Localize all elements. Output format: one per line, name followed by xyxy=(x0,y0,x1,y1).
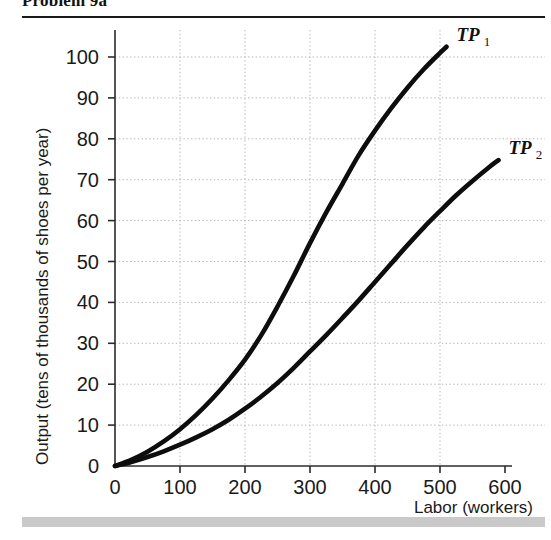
y-tick-label: 50 xyxy=(77,251,99,273)
y-tick-label: 10 xyxy=(77,414,99,436)
y-tick-label: 80 xyxy=(77,128,99,150)
chart-axes xyxy=(115,30,512,466)
x-tick-label: 100 xyxy=(163,476,196,498)
horizontal-gridlines xyxy=(115,57,545,425)
y-axis-tick-labels: 0102030405060708090100 xyxy=(66,46,99,477)
series-label: TP2 xyxy=(509,137,543,162)
bottom-gray-band xyxy=(22,517,545,527)
total-product-chart: 0102030405060708090100 01002003004005006… xyxy=(0,0,551,540)
y-axis-ticks xyxy=(108,57,115,425)
y-axis-title: Output (tens of thousands of shoes per y… xyxy=(33,128,52,465)
figure-root: Problem 9a 0102030405060708090100 010020… xyxy=(0,0,551,540)
x-tick-label: 300 xyxy=(293,476,326,498)
y-tick-label: 20 xyxy=(77,373,99,395)
y-tick-label: 70 xyxy=(77,169,99,191)
y-tick-label: 100 xyxy=(66,46,99,68)
series-labels: TP1TP2 xyxy=(457,24,543,162)
x-axis-title: Labor (workers) xyxy=(414,498,533,517)
series-label-subscript: 1 xyxy=(484,34,491,49)
x-tick-label: 200 xyxy=(228,476,261,498)
y-tick-label: 40 xyxy=(77,291,99,313)
y-tick-label: 60 xyxy=(77,210,99,232)
x-axis-ticks xyxy=(180,466,505,473)
series-label: TP1 xyxy=(457,24,491,49)
series-label-subscript: 2 xyxy=(536,147,543,162)
y-tick-label: 30 xyxy=(77,332,99,354)
x-tick-label: 500 xyxy=(423,476,456,498)
x-tick-label: 600 xyxy=(488,476,521,498)
series-curve xyxy=(115,160,499,466)
x-tick-label: 400 xyxy=(358,476,391,498)
x-tick-label: 0 xyxy=(109,476,120,498)
series-curves xyxy=(115,47,499,466)
y-tick-label: 90 xyxy=(77,87,99,109)
y-tick-label: 0 xyxy=(88,455,99,477)
x-axis-tick-labels: 0100200300400500600 xyxy=(109,476,521,498)
